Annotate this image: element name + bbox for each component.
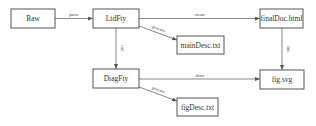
flow-diagram: parse create process call link draw proc… <box>0 0 316 126</box>
node-label: finalDoc.html <box>261 14 303 23</box>
edge-ltdfty-maindesc: process <box>139 24 177 40</box>
edge-ltdfty-diagfty: call <box>116 28 125 69</box>
node-label: LtdFty <box>106 14 127 23</box>
edge-raw-ltdfty: parse <box>55 12 93 19</box>
node-label: Raw <box>26 14 40 23</box>
node-figdesc: figDesc.txt <box>177 98 218 116</box>
edge-diagfty-figsvg: draw <box>139 73 260 80</box>
edge-label: link <box>286 45 291 53</box>
edge-label: parse <box>69 12 79 17</box>
node-ltdfty: LtdFty <box>93 9 139 28</box>
edge-label: create <box>195 12 206 17</box>
edge-diagfty-figdesc: process <box>139 85 177 101</box>
node-diagfty: DiagFty <box>93 69 139 88</box>
node-label: DiagFty <box>104 74 129 83</box>
node-label: figDesc.txt <box>181 103 215 112</box>
node-maindesc: mainDesc.txt <box>177 36 224 54</box>
node-label: mainDesc.txt <box>181 41 222 50</box>
edge-label: process <box>151 24 166 33</box>
edge-label: call <box>120 45 125 52</box>
node-finaldoc: finalDoc.html <box>260 9 303 28</box>
node-raw: Raw <box>11 9 55 28</box>
node-figsvg: fig.svg <box>260 70 304 89</box>
edge-label: draw <box>196 73 206 78</box>
edge-ltdfty-finaldoc: create <box>139 12 260 19</box>
edge-finaldoc-figsvg: link <box>282 28 291 70</box>
node-label: fig.svg <box>272 75 293 84</box>
edge-label: process <box>151 85 166 94</box>
